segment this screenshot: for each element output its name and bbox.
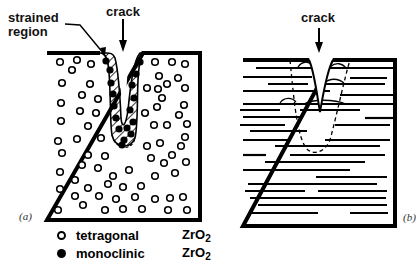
legend-item-monoclinic: monoclinic ZrO2 — [57, 245, 211, 262]
open-circle-icon — [57, 231, 66, 240]
legend-formula: ZrO2 — [182, 245, 211, 262]
crack-label-b: crack — [301, 11, 335, 24]
crack-label-a: crack — [106, 5, 140, 18]
strained-region-label-line2: region — [8, 25, 48, 38]
crack-arrow-icon-b — [315, 42, 323, 53]
panel-a-label: (a) — [19, 210, 32, 222]
filled-circle-icon — [57, 249, 66, 258]
strained-leader-line — [65, 24, 104, 54]
panel-b — [240, 28, 395, 226]
panel-b-label: (b) — [403, 211, 416, 223]
strained-region-label-line1: strained — [8, 11, 59, 24]
panel-a — [47, 19, 200, 220]
legend-formula: ZrO2 — [182, 227, 211, 244]
legend-item-tetragonal: tetragonal ZrO2 — [57, 227, 211, 244]
